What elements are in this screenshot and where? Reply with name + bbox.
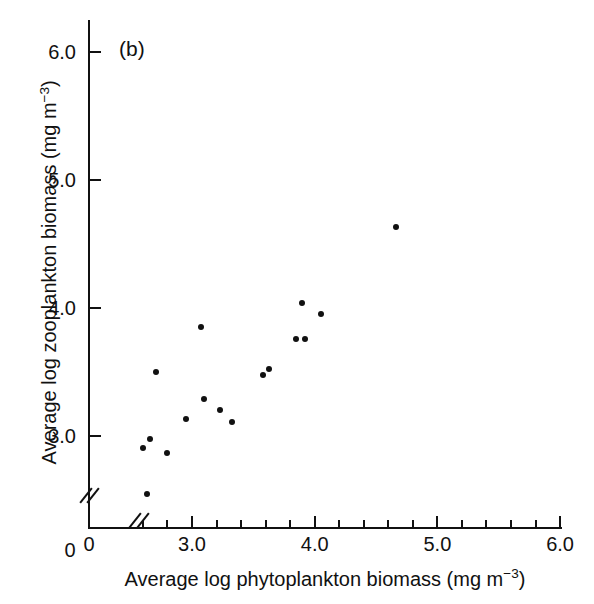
y-axis-line bbox=[88, 20, 90, 528]
x-tick-0 bbox=[88, 516, 90, 527]
x-axis-break-icon bbox=[130, 508, 150, 534]
x-tick-4.8 bbox=[412, 520, 414, 527]
y-tick-6.0 bbox=[90, 51, 101, 53]
y-axis-break-icon bbox=[82, 484, 98, 510]
data-point bbox=[299, 300, 305, 306]
data-point bbox=[293, 336, 299, 342]
scatter-plot-figure: (b) 3.04.05.06.0 3.04.05.06.00 0 Average… bbox=[0, 0, 594, 604]
data-point bbox=[260, 372, 266, 378]
x-tick-3.6 bbox=[265, 520, 267, 527]
x-tick-5.4 bbox=[485, 520, 487, 527]
data-point bbox=[229, 419, 235, 425]
x-tick-2.8 bbox=[166, 520, 168, 527]
y-tick-4.0 bbox=[90, 307, 101, 309]
y-tick-5.0 bbox=[90, 179, 101, 181]
data-point bbox=[144, 491, 150, 497]
data-point bbox=[201, 396, 207, 402]
x-tick-5.6 bbox=[510, 520, 512, 527]
x-axis-title-text: Average log phytoplankton biomass (mg m bbox=[125, 568, 504, 590]
data-point bbox=[217, 407, 223, 413]
data-point bbox=[147, 436, 153, 442]
data-point bbox=[183, 416, 189, 422]
x-tick-label-3.0: 3.0 bbox=[162, 534, 222, 554]
data-point bbox=[140, 445, 146, 451]
data-point bbox=[266, 366, 272, 372]
x-tick-5.8 bbox=[535, 520, 537, 527]
data-point bbox=[153, 369, 159, 375]
panel-label: (b) bbox=[119, 38, 145, 60]
y-axis-title-paren: ) bbox=[38, 80, 60, 87]
x-axis-title-exponent: −3 bbox=[503, 566, 519, 581]
x-tick-3.8 bbox=[289, 520, 291, 527]
x-tick-4.4 bbox=[363, 520, 365, 527]
x-tick-4.0 bbox=[314, 516, 316, 527]
x-axis-line bbox=[88, 527, 562, 529]
x-tick-4.2 bbox=[338, 520, 340, 527]
data-point bbox=[302, 336, 308, 342]
x-tick-4.6 bbox=[387, 520, 389, 527]
x-tick-3.0 bbox=[191, 516, 193, 527]
x-tick-6.0 bbox=[559, 516, 561, 527]
data-point bbox=[198, 324, 204, 330]
x-tick-label-6.0: 6.0 bbox=[530, 534, 590, 554]
x-axis-title: Average log phytoplankton biomass (mg m−… bbox=[88, 562, 562, 591]
x-tick-5.2 bbox=[461, 520, 463, 527]
x-tick-5.0 bbox=[436, 516, 438, 527]
data-point bbox=[164, 450, 170, 456]
x-tick-2.6 bbox=[142, 520, 144, 527]
y-tick-3.0 bbox=[90, 435, 101, 437]
y-axis-title-exponent: −3 bbox=[37, 87, 52, 103]
x-tick-3.2 bbox=[216, 520, 218, 527]
y-axis-title-text: Average log zooplankton biomass (mg m bbox=[38, 102, 60, 464]
x-tick-label-4.0: 4.0 bbox=[285, 534, 345, 554]
data-point bbox=[318, 311, 324, 317]
y-axis-title: Average log zooplankton biomass (mg m−3) bbox=[33, 42, 62, 502]
x-axis-title-paren: ) bbox=[519, 568, 526, 590]
x-tick-label-5.0: 5.0 bbox=[407, 534, 467, 554]
data-point bbox=[393, 224, 399, 230]
x-tick-3.4 bbox=[240, 520, 242, 527]
y-axis-origin-label: 0 bbox=[58, 540, 82, 560]
